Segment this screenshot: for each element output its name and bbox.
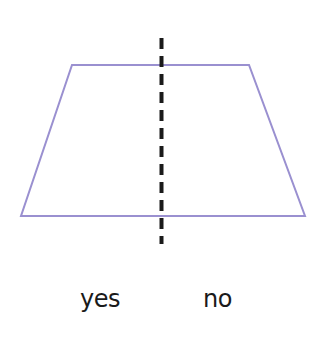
trapezoid-figure [0, 0, 328, 350]
trapezoid-shape [21, 65, 305, 216]
diagram-canvas: yes no [0, 0, 328, 350]
label-yes: yes [80, 284, 120, 314]
label-no: no [203, 284, 232, 314]
